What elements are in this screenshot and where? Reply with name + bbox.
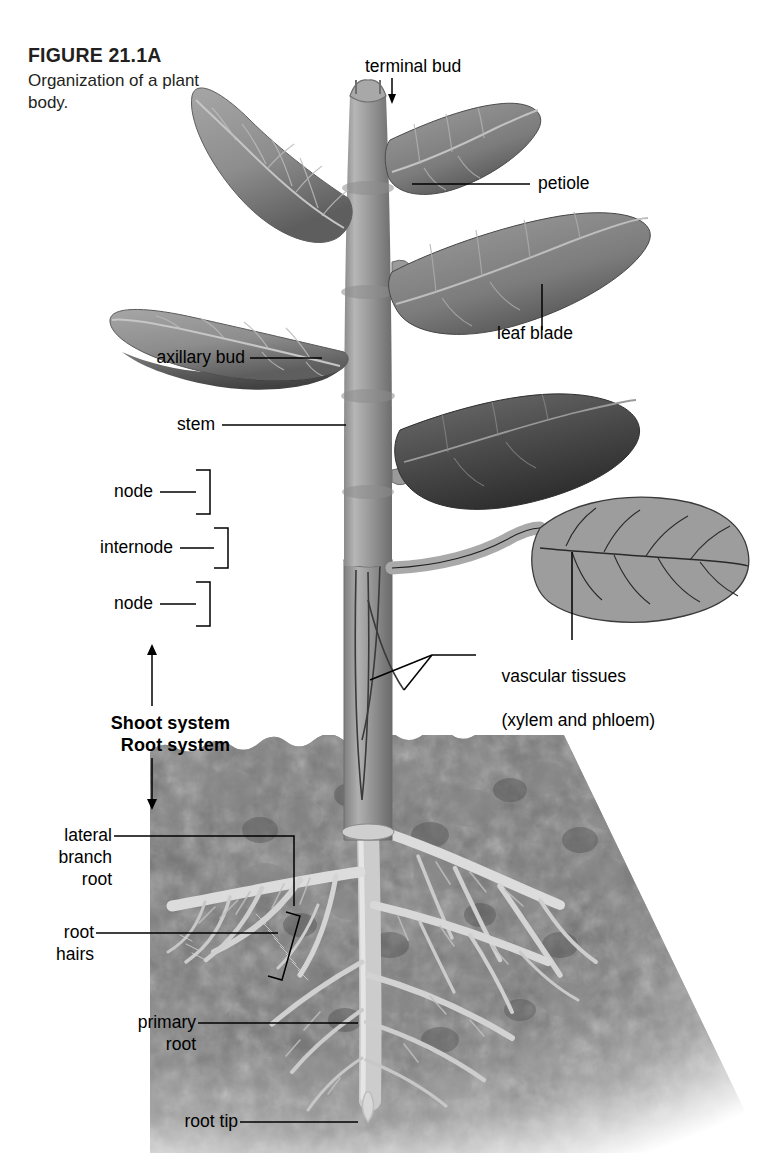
bracket-node-lower [196, 582, 210, 626]
label-shoot-system: Shoot system [18, 712, 230, 735]
bracket-node-upper [196, 470, 210, 514]
figure-caption-text: Organization of a plant body. [28, 70, 243, 115]
plant-illustration [0, 0, 765, 1153]
figure-21-1a: FIGURE 21.1A Organization of a plant bod… [0, 0, 765, 1153]
label-vascular-tissues: vascular tissues (xylem and phloem) [482, 643, 655, 753]
label-petiole: petiole [538, 172, 590, 194]
label-root-hairs: root hairs [0, 921, 94, 965]
label-root-tip: root tip [0, 1110, 238, 1132]
bracket-internode [214, 528, 228, 568]
figure-number: FIGURE 21.1A [28, 44, 243, 67]
label-vascular-line1: vascular tissues [501, 666, 626, 686]
label-vascular-line2: (xylem and phloem) [501, 710, 655, 730]
label-node-lower: node [40, 592, 153, 614]
label-internode: internode [40, 536, 173, 558]
label-stem: stem [40, 413, 215, 435]
label-axillary-bud: axillary bud [40, 346, 245, 368]
figure-caption: FIGURE 21.1A Organization of a plant bod… [28, 44, 243, 115]
label-root-system: Root system [18, 734, 230, 757]
label-leaf-blade: leaf blade [497, 322, 573, 344]
leaf-vascular-diagram [392, 497, 749, 622]
label-terminal-bud: terminal bud [365, 55, 461, 77]
leaf-mid-right [389, 212, 651, 334]
label-lateral-branch-root: lateral branch root [0, 824, 112, 890]
leaf-lower-right [395, 394, 640, 510]
leaf-upper-right [385, 103, 541, 194]
label-primary-root: primary root [0, 1011, 196, 1055]
label-node-upper: node [40, 480, 153, 502]
